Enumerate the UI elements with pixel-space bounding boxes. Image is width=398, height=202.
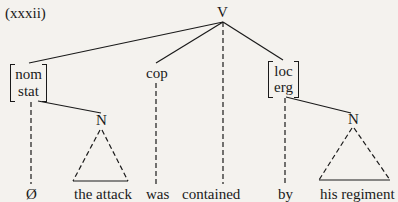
leaf-null: Ø [26,187,37,202]
leaf-contained: contained [182,187,240,202]
leaf-the-attack: the attack [74,187,132,202]
feature-loc: loc [271,63,296,79]
branch-nom-stat-n [38,101,101,113]
leaf-by: by [278,187,293,202]
feature-erg: erg [271,79,296,95]
example-number: (xxxii) [5,6,46,21]
branch-v-loc-erg [223,22,283,60]
branch-v-cop [156,22,223,63]
node-n-right: N [348,112,359,127]
leaf-his-regiment: his regiment [320,187,395,202]
node-v: V [217,5,228,20]
feature-nom: nom [14,66,43,82]
node-cop: cop [146,66,168,81]
tree-diagram [0,0,398,202]
leaf-was: was [146,187,169,202]
feature-matrix-nom-stat: nom stat [10,64,47,102]
triangle-left-side-b [102,130,128,181]
node-n-left: N [96,113,107,128]
feature-stat: stat [14,83,43,99]
bracket-right [42,64,47,102]
branch-loc-erg-n [286,97,351,113]
branch-v-nom-stat [29,22,223,63]
triangle-right-side-b [354,128,390,180]
triangle-right-side-a [319,128,352,180]
feature-matrix-loc-erg: loc erg [268,61,299,98]
bracket-right [294,61,299,98]
triangle-left-side-a [73,130,100,181]
